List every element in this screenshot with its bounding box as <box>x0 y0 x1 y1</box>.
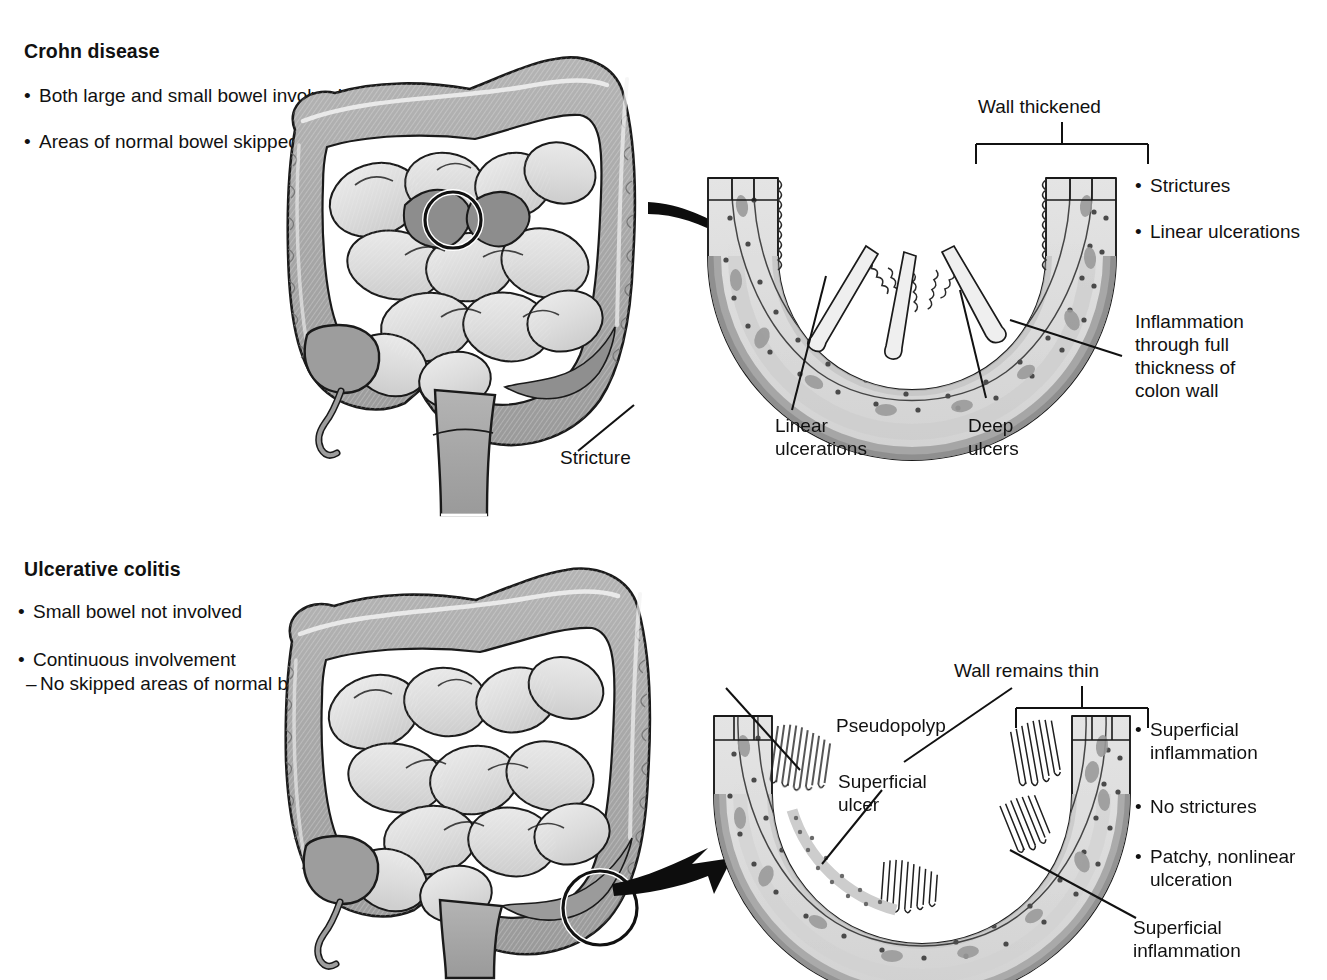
crohn-cross-section-illustration <box>690 160 1135 425</box>
uc-bullet-no-strictures: No strictures <box>1135 795 1257 818</box>
rectum-uc <box>440 900 502 978</box>
linear-ulcerations-label: Linear ulcerations <box>775 414 867 460</box>
pseudopolyp-label: Pseudopolyp <box>836 715 946 737</box>
uc-section-title: Ulcerative colitis <box>24 558 181 581</box>
superficial-ulcer-label: Superficial ulcer <box>838 770 927 816</box>
wall-thickened-label: Wall thickened <box>978 96 1101 118</box>
uc-bullet-superficial-inflammation: Superficial inflammation <box>1135 718 1327 764</box>
stricture-label: Stricture <box>560 447 631 469</box>
ulcerative-colitis-panel: Ulcerative colitis Small bowel not invol… <box>0 520 1327 979</box>
crohn-section-title: Crohn disease <box>24 40 160 63</box>
crohn-disease-panel: Crohn disease Both large and small bowel… <box>0 0 1327 520</box>
wall-remains-thin-label: Wall remains thin <box>954 660 1099 682</box>
crohn-callout-inflammation: Inflammation through full thickness of c… <box>1135 310 1244 402</box>
uc-colon-illustration <box>250 550 700 980</box>
deep-ulcers-leader-line <box>946 290 1006 402</box>
bowel-wall-body <box>708 178 1116 460</box>
uc-bowel-wall-body <box>714 716 1130 980</box>
pseudopolyps <box>770 718 1062 915</box>
crohn-bullet-linear-ulcerations: Linear ulcerations <box>1135 220 1300 243</box>
uc-bullet-patchy-ulceration: Patchy, nonlinear ulceration <box>1135 845 1327 891</box>
deep-ulcers-label: Deep ulcers <box>968 414 1019 460</box>
crohn-bullet-strictures: Strictures <box>1135 174 1230 197</box>
uc-callout-superficial-inflammation: Superficial inflammation <box>1133 916 1327 962</box>
linear-ulcerations-leader-line <box>780 276 850 414</box>
uc-cross-section-illustration <box>700 710 1145 980</box>
rectum <box>433 390 495 515</box>
